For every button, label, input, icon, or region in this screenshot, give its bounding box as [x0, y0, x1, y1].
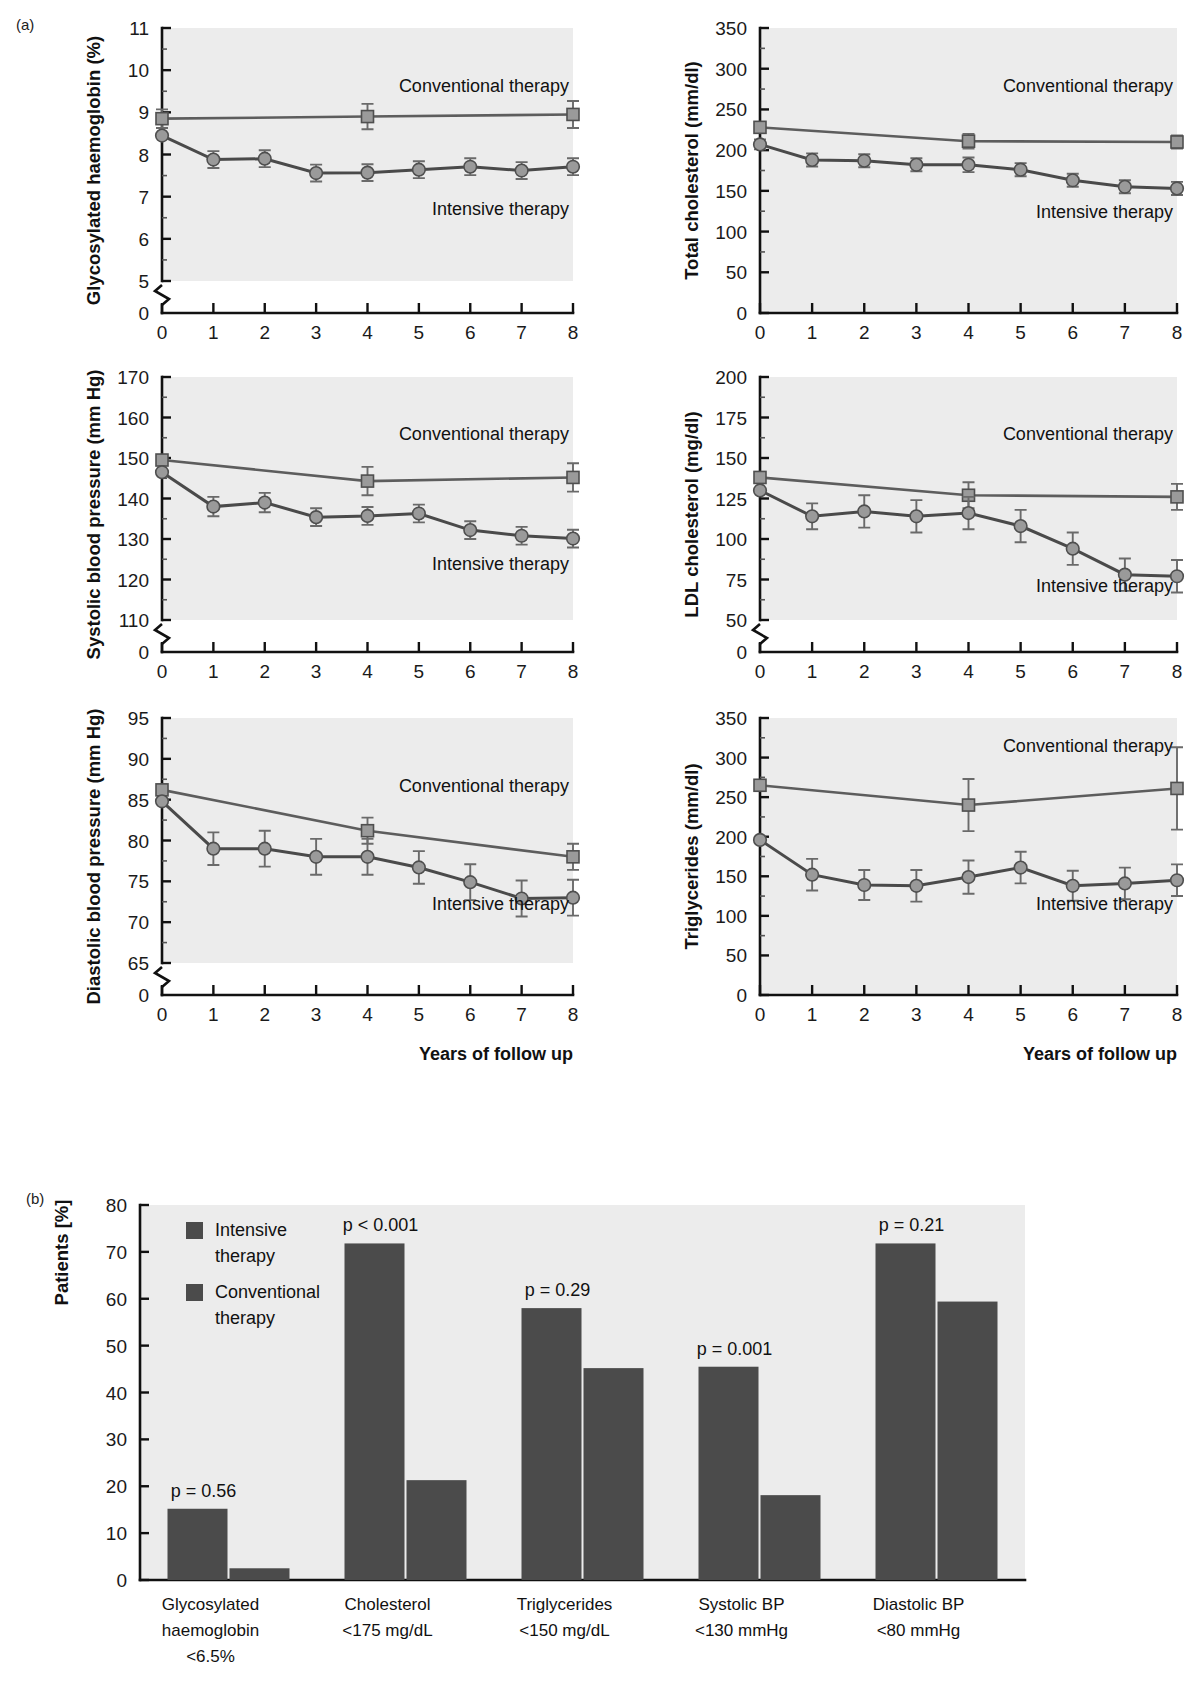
y-tick-label: 150 — [715, 448, 747, 469]
bar-y-tick-label: 40 — [106, 1383, 127, 1404]
y-tick-label: 160 — [117, 408, 149, 429]
chart-diastolic-bp: 065707580859095012345678Diastolic blood … — [83, 708, 579, 1025]
bar-category-label: haemoglobin — [162, 1621, 259, 1640]
x-tick-label: 4 — [362, 322, 373, 343]
x-tick-label: 6 — [1067, 1004, 1078, 1025]
y-tick-label: 11 — [129, 18, 149, 39]
x-tick-label: 0 — [157, 1004, 168, 1025]
y-tick-label: 250 — [715, 99, 747, 120]
x-tick-label: 1 — [208, 1004, 219, 1025]
y-axis-break — [155, 967, 169, 987]
y-tick-label: 110 — [119, 610, 149, 631]
y-axis-title: Total cholesterol (mm/dl) — [681, 61, 702, 280]
marker-circle — [464, 160, 477, 173]
bar-intensive[interactable] — [168, 1509, 228, 1580]
bar-conventional[interactable] — [230, 1568, 290, 1580]
chart-targets-achieved: 01020304050607080Patients [%]p = 0.56Gly… — [51, 1195, 1025, 1666]
marker-square — [1171, 782, 1183, 794]
x-tick-label: 7 — [1120, 661, 1131, 682]
x-tick-label: 2 — [259, 322, 270, 343]
y-tick-label: 0 — [736, 303, 747, 324]
y-tick-label: 0 — [138, 642, 149, 663]
y-tick-label: 150 — [117, 448, 149, 469]
bar-y-tick-label: 70 — [106, 1242, 127, 1263]
marker-circle — [806, 154, 819, 167]
bar-conventional[interactable] — [938, 1302, 998, 1580]
bar-intensive[interactable] — [876, 1243, 936, 1580]
y-tick-label: 90 — [128, 749, 149, 770]
y-tick-label: 75 — [726, 570, 747, 591]
x-tick-label: 2 — [259, 661, 270, 682]
bar-conventional[interactable] — [584, 1368, 644, 1580]
y-tick-label: 8 — [138, 145, 149, 166]
y-tick-label: 65 — [128, 953, 149, 974]
y-tick-label: 350 — [715, 708, 747, 729]
marker-circle — [1014, 861, 1027, 874]
p-value-annotation: p = 0.21 — [879, 1215, 945, 1235]
marker-circle — [310, 167, 323, 180]
y-axis-title: Glycosylated haemoglobin (%) — [83, 36, 104, 305]
bar-category-label: <80 mmHg — [877, 1621, 961, 1640]
legend-label-intensive-line2: therapy — [215, 1246, 275, 1266]
marker-circle — [464, 524, 477, 537]
y-tick-label: 7 — [138, 187, 149, 208]
x-tick-label: 2 — [259, 1004, 270, 1025]
bar-category-label: Diastolic BP — [873, 1595, 965, 1614]
marker-square — [156, 454, 168, 466]
marker-circle — [207, 153, 220, 166]
chart-triglycerides: 050100150200250300350012345678Triglyceri… — [681, 708, 1183, 1025]
marker-circle — [1119, 180, 1132, 193]
bar-y-tick-label: 80 — [106, 1195, 127, 1216]
bar-intensive[interactable] — [345, 1243, 405, 1580]
y-tick-label: 100 — [715, 906, 747, 927]
marker-circle — [258, 842, 271, 855]
marker-circle — [754, 484, 767, 497]
marker-circle — [207, 500, 220, 513]
marker-square — [362, 111, 374, 123]
marker-circle — [1014, 163, 1027, 176]
plot-background — [162, 28, 573, 281]
x-tick-label: 5 — [1015, 1004, 1026, 1025]
label-conventional-therapy: Conventional therapy — [399, 76, 569, 96]
x-tick-label: 3 — [311, 661, 322, 682]
marker-circle — [754, 834, 767, 847]
bar-conventional[interactable] — [761, 1495, 821, 1580]
x-tick-label: 5 — [1015, 322, 1026, 343]
bar-conventional[interactable] — [407, 1480, 467, 1580]
x-tick-label: 3 — [311, 322, 322, 343]
legend-swatch-intensive — [186, 1222, 203, 1239]
bar-category-label: <6.5% — [186, 1647, 235, 1666]
y-tick-label: 350 — [715, 18, 747, 39]
marker-circle — [310, 851, 323, 864]
x-tick-label: 2 — [859, 661, 870, 682]
marker-circle — [858, 154, 871, 167]
x-tick-label: 4 — [362, 1004, 373, 1025]
label-intensive-therapy: Intensive therapy — [432, 199, 569, 219]
x-tick-label: 7 — [516, 322, 527, 343]
x-tick-label: 3 — [911, 322, 922, 343]
label-conventional-therapy: Conventional therapy — [1003, 736, 1173, 756]
x-tick-label: 6 — [465, 322, 476, 343]
y-tick-label: 200 — [715, 827, 747, 848]
x-tick-label: 8 — [568, 322, 579, 343]
bar-intensive[interactable] — [699, 1367, 759, 1580]
marker-circle — [962, 507, 975, 520]
marker-circle — [156, 129, 169, 142]
marker-square — [1171, 136, 1183, 148]
marker-circle — [910, 159, 923, 172]
x-tick-label: 2 — [859, 322, 870, 343]
label-intensive-therapy: Intensive therapy — [432, 554, 569, 574]
y-tick-label: 250 — [715, 787, 747, 808]
x-tick-label: 1 — [208, 322, 219, 343]
bar-y-tick-label: 30 — [106, 1429, 127, 1450]
bar-intensive[interactable] — [522, 1308, 582, 1580]
marker-square — [754, 121, 766, 133]
marker-circle — [1066, 879, 1079, 892]
y-tick-label: 0 — [138, 985, 149, 1006]
panel-a-label: (a) — [16, 16, 34, 33]
x-tick-label: 5 — [1015, 661, 1026, 682]
x-tick-label: 6 — [1067, 661, 1078, 682]
label-conventional-therapy: Conventional therapy — [1003, 424, 1173, 444]
label-intensive-therapy: Intensive therapy — [1036, 894, 1173, 914]
x-tick-label: 1 — [807, 1004, 818, 1025]
